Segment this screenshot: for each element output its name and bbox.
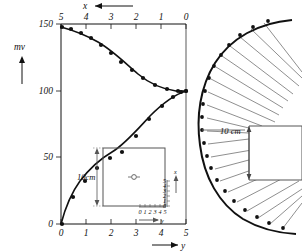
inset-y-tick-label: 5 [163, 208, 166, 215]
inset-x-scale-label: x [173, 168, 177, 175]
top-tick-label: 0 [184, 12, 189, 22]
figure-root: 5 4 3 2 1 0 x 0 1 2 3 4 5 y [0, 0, 302, 251]
bottom-tick-label: 2 [109, 228, 114, 238]
curve-upper-branch [61, 27, 186, 91]
bottom-tick-label: 1 [84, 228, 89, 238]
right-dimension-label: 10 cm [220, 126, 241, 136]
bottom-axis-ticks [61, 219, 186, 224]
top-tick-label: 2 [134, 12, 139, 22]
top-axis-arrow-icon [95, 3, 133, 9]
left-axis-label: mv [14, 42, 26, 52]
bottom-tick-label: 0 [59, 228, 64, 238]
inset-y-tick-label: 3 [152, 208, 156, 215]
radial-field-diagram: 10 cm [199, 19, 302, 234]
left-axis-ticks [56, 24, 61, 224]
left-tick-label: 100 [39, 86, 54, 96]
main-graph: 5 4 3 2 1 0 x 0 1 2 3 4 5 y [14, 1, 189, 251]
figure-svg: 5 4 3 2 1 0 x 0 1 2 3 4 5 y [0, 0, 302, 251]
inset-schematic: 10cm 0 1 2 3 4 5 y [77, 148, 178, 224]
arc-data-points [200, 19, 285, 230]
inset-dimension-label: 10cm [77, 172, 95, 182]
top-axis-label: x [82, 1, 88, 11]
left-tick-label: 50 [44, 152, 54, 162]
inset-y-scale-label: y [160, 217, 164, 224]
bottom-tick-label: 3 [133, 228, 139, 238]
inset-y-tick-label: 0 [138, 208, 142, 215]
block-rectangle [249, 126, 302, 180]
inset-y-tick-label: 4 [158, 208, 161, 215]
left-tick-label: 150 [39, 19, 54, 29]
bottom-tick-label: 4 [159, 228, 164, 238]
inset-box [103, 148, 165, 206]
inset-x-scale [167, 180, 170, 207]
top-tick-label: 1 [159, 12, 164, 22]
data-points-upper [60, 25, 188, 93]
left-tick-label: 0 [48, 219, 53, 229]
inset-center-marker-icon [132, 175, 137, 180]
top-axis-ticks [61, 24, 186, 29]
top-tick-label: 5 [59, 12, 64, 22]
bottom-axis-label: y [180, 241, 186, 251]
inset-y-arrow-icon [139, 218, 159, 223]
inset-x-arrow-icon [174, 175, 179, 193]
inset-y-tick-label: 1 [143, 208, 146, 215]
inset-y-tick-label: 2 [148, 208, 151, 215]
bottom-axis-arrow-icon [152, 242, 178, 248]
left-axis-arrow-icon [19, 56, 25, 84]
inset-x-tick-label: 5 [163, 177, 166, 184]
top-tick-label: 3 [108, 12, 114, 22]
top-tick-label: 4 [84, 12, 89, 22]
bottom-tick-label: 5 [184, 228, 189, 238]
